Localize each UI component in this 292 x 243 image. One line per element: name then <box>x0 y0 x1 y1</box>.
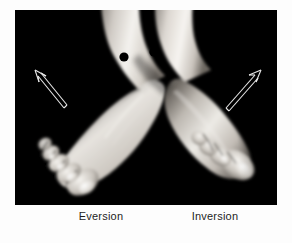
right-ankle-marker <box>149 47 158 56</box>
left-vignette <box>15 10 57 205</box>
feet-photograph <box>15 10 277 205</box>
photograph-plate <box>15 10 277 205</box>
caption-row: Eversion Inversion <box>15 208 277 230</box>
figure-root: Eversion Inversion <box>0 0 292 243</box>
right-vignette <box>235 10 277 205</box>
caption-inversion: Inversion <box>129 208 292 224</box>
left-ankle-marker <box>119 52 128 61</box>
